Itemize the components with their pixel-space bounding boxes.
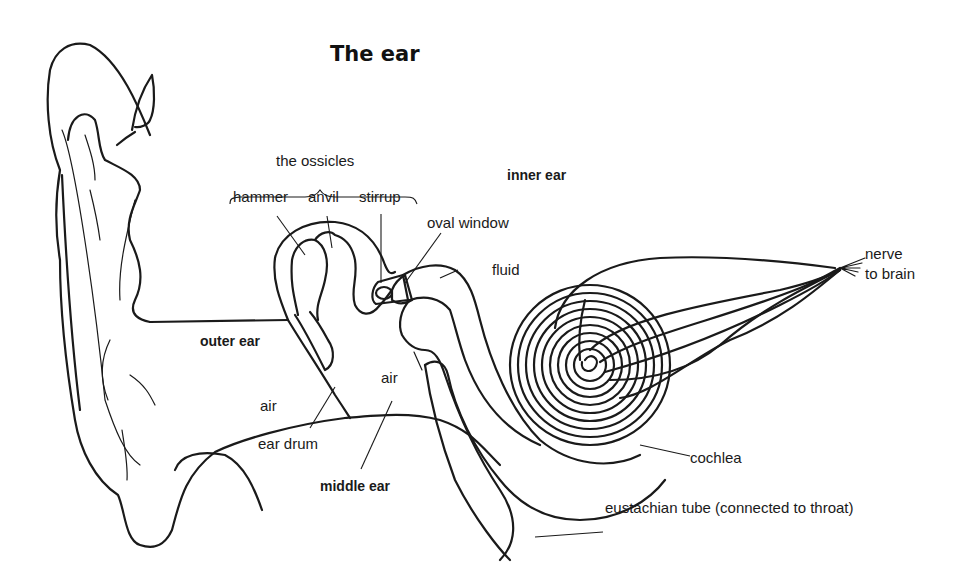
nerve-label-line1: nerve	[865, 246, 903, 261]
cochlea-label: cochlea	[690, 450, 742, 465]
hammer-label: hammer	[233, 189, 288, 204]
ear-canal	[288, 312, 350, 418]
fluid-label: fluid	[492, 262, 520, 277]
stirrup-label: stirrup	[359, 189, 401, 204]
oval-window-label: oval window	[427, 215, 509, 230]
ear-diagram	[0, 0, 970, 573]
anvil-label: anvil	[308, 189, 339, 204]
nerve-label-line2: to brain	[865, 266, 915, 281]
air-middle-label: air	[381, 370, 398, 385]
inner-ear-region-label: inner ear	[507, 168, 566, 182]
pinna-outline	[48, 44, 500, 547]
air-outer-label: air	[260, 398, 277, 413]
ossicles-group-label: the ossicles	[276, 153, 354, 168]
eustachian-tube-label: eustachian tube (connected to throat)	[605, 500, 854, 515]
middle-ear-region-label: middle ear	[320, 479, 390, 493]
ear-drum-label: ear drum	[258, 436, 318, 451]
outer-ear-region-label: outer ear	[200, 334, 260, 348]
cochlea-spiral	[510, 285, 670, 445]
diagram-title: The ear	[330, 42, 420, 66]
ossicles	[274, 222, 412, 320]
